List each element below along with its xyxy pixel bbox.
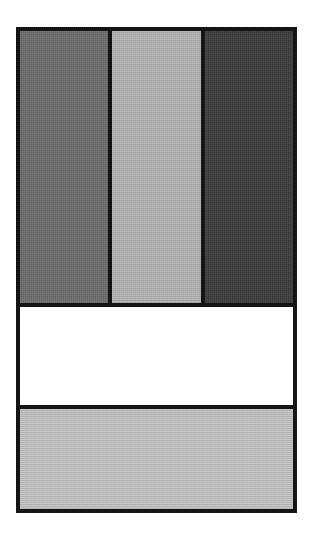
white-band: [20, 307, 293, 405]
right-bar: [205, 31, 293, 303]
vertical-bars-row: [20, 31, 293, 303]
banner-frame: [16, 27, 297, 513]
left-bar: [20, 31, 108, 303]
light-gray-band: [20, 409, 293, 509]
middle-bar: [112, 31, 200, 303]
